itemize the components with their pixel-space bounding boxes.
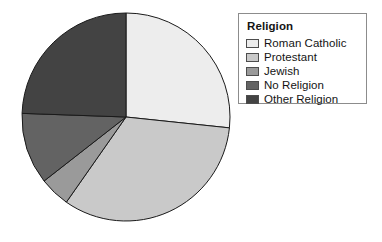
legend-item[interactable]: Jewish — [246, 64, 366, 78]
pie-slice[interactable] — [22, 13, 126, 117]
legend-items-list: Roman CatholicProtestantJewishNo Religio… — [246, 36, 366, 106]
legend-item-label: No Religion — [264, 78, 324, 92]
legend-item[interactable]: No Religion — [246, 78, 366, 92]
pie-slices-group — [22, 13, 230, 221]
legend-color-swatch — [246, 67, 259, 76]
legend-item[interactable]: Other Religion — [246, 92, 366, 106]
pie-chart-figure: Religion Roman CatholicProtestantJewishN… — [0, 0, 382, 242]
legend-item-label: Jewish — [264, 64, 299, 78]
pie-slice[interactable] — [126, 13, 230, 128]
legend-item[interactable]: Protestant — [246, 50, 366, 64]
legend-color-swatch — [246, 39, 259, 48]
legend-color-swatch — [246, 81, 259, 90]
legend-title: Religion — [247, 19, 366, 33]
legend-color-swatch — [246, 53, 259, 62]
legend-color-swatch — [246, 95, 259, 104]
legend-item[interactable]: Roman Catholic — [246, 36, 366, 50]
legend-item-label: Roman Catholic — [264, 36, 347, 50]
legend-item-label: Protestant — [264, 50, 317, 64]
legend: Religion Roman CatholicProtestantJewishN… — [238, 13, 367, 104]
legend-item-label: Other Religion — [264, 92, 338, 106]
